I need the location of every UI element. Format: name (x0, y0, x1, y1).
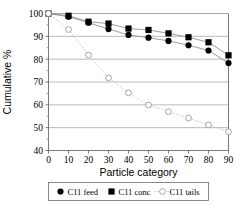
chart-figure: 4050607080901000102030405060708090Partic… (0, 0, 252, 211)
x-tick-label-60: 60 (164, 155, 174, 165)
cumulative-percent-line-chart: 4050607080901000102030405060708090Partic… (0, 0, 252, 211)
data-point-1-60 (165, 30, 171, 36)
data-point-2-20 (86, 52, 92, 58)
data-point-2-30 (106, 75, 112, 81)
data-point-1-40 (125, 25, 131, 31)
x-tick-label-10: 10 (64, 155, 74, 165)
data-point-2-80 (206, 122, 212, 128)
filled-square-icon (108, 188, 114, 194)
x-tick-label-20: 20 (84, 155, 94, 165)
data-point-2-0 (46, 11, 52, 17)
data-point-0-40 (125, 32, 131, 38)
x-tick-label-90: 90 (224, 155, 234, 165)
x-tick-label-40: 40 (124, 155, 134, 165)
x-tick-label-30: 30 (104, 155, 114, 165)
legend: C11 feedC11 concC11 tails (49, 183, 209, 201)
data-point-1-70 (185, 34, 191, 40)
data-point-0-80 (205, 47, 211, 53)
data-point-2-40 (126, 90, 132, 96)
data-point-1-50 (145, 27, 151, 33)
data-point-2-90 (226, 129, 232, 135)
filled-circle-icon (57, 188, 63, 194)
data-point-0-50 (145, 35, 151, 41)
data-point-2-10 (66, 27, 72, 33)
legend-label-1: C11 conc (119, 187, 151, 197)
y-tick-label-100: 100 (29, 9, 44, 19)
x-tick-label-50: 50 (144, 155, 154, 165)
x-tick-label-80: 80 (204, 155, 214, 165)
x-tick-label-0: 0 (46, 155, 51, 165)
x-axis-title: Particle category (99, 166, 178, 178)
data-point-0-60 (165, 38, 171, 44)
y-axis-title: Cumulative % (1, 50, 13, 115)
data-point-1-10 (65, 13, 71, 19)
data-point-2-70 (186, 115, 192, 121)
y-tick-label-70: 70 (34, 77, 44, 87)
data-point-0-30 (105, 26, 111, 32)
legend-label-0: C11 feed (68, 187, 99, 197)
data-point-1-20 (85, 19, 91, 25)
data-point-1-90 (225, 52, 231, 58)
y-tick-label-40: 40 (34, 146, 44, 156)
data-point-0-70 (185, 42, 191, 48)
y-tick-label-60: 60 (34, 100, 44, 110)
x-tick-label-70: 70 (184, 155, 194, 165)
data-point-1-80 (205, 39, 211, 45)
legend-label-2: C11 tails (170, 187, 200, 197)
data-point-0-90 (225, 60, 231, 66)
open-circle-icon (160, 189, 166, 195)
y-tick-label-80: 80 (34, 55, 44, 65)
data-point-2-60 (166, 109, 172, 115)
data-point-2-50 (146, 102, 152, 108)
y-tick-label-90: 90 (34, 32, 44, 42)
y-tick-label-50: 50 (34, 123, 44, 133)
data-point-1-30 (105, 20, 111, 26)
